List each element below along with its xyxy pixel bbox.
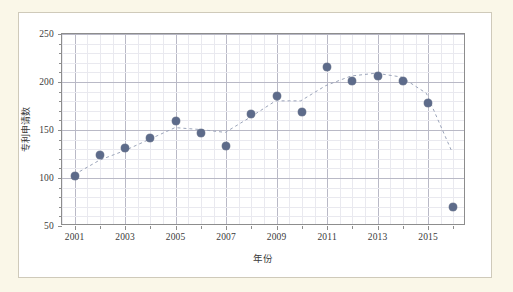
data-point bbox=[96, 151, 104, 159]
data-point bbox=[323, 63, 331, 71]
x-tick-label: 2003 bbox=[115, 232, 135, 242]
data-point bbox=[298, 108, 306, 116]
y-tick-label: 50 bbox=[44, 221, 54, 231]
figure-page: 20012003200520072009201120132015 5010015… bbox=[0, 0, 513, 292]
x-tick-label: 2007 bbox=[216, 232, 236, 242]
data-point bbox=[399, 77, 407, 85]
x-tick-label: 2009 bbox=[267, 232, 287, 242]
y-axis-title: 专利申请数 bbox=[19, 107, 32, 152]
x-axis-title: 年份 bbox=[61, 251, 465, 265]
data-point bbox=[197, 129, 205, 137]
chart-panel: 20012003200520072009201120132015 5010015… bbox=[18, 12, 492, 278]
x-tick-label: 2001 bbox=[65, 232, 85, 242]
data-point bbox=[71, 172, 79, 180]
x-tick-label: 2011 bbox=[317, 232, 336, 242]
y-tick-label: 150 bbox=[39, 125, 54, 135]
y-tick-label: 100 bbox=[39, 173, 54, 183]
y-tick-label: 200 bbox=[39, 77, 54, 87]
x-tick-label: 2015 bbox=[418, 232, 438, 242]
x-tick-label: 2005 bbox=[166, 232, 186, 242]
x-tick-label: 2013 bbox=[368, 232, 388, 242]
plot-area: 20012003200520072009201120132015 5010015… bbox=[61, 33, 465, 225]
y-tick-label: 250 bbox=[39, 29, 54, 39]
data-point bbox=[374, 72, 382, 80]
data-point bbox=[172, 117, 180, 125]
grid bbox=[62, 34, 464, 224]
